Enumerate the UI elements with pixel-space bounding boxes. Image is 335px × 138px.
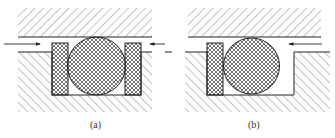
panel-a bbox=[4, 8, 165, 112]
seal-diagram bbox=[0, 0, 335, 138]
panel-b bbox=[165, 8, 330, 112]
housing-top-a bbox=[18, 8, 152, 37]
caption-b: (b) bbox=[248, 119, 260, 130]
backup-ring-left-a bbox=[52, 43, 68, 95]
housing-top-b bbox=[188, 8, 321, 37]
backup-ring-left-b bbox=[207, 43, 223, 95]
caption-a: (a) bbox=[90, 119, 101, 130]
backup-ring-right-a bbox=[125, 43, 141, 95]
o-ring-b bbox=[224, 38, 280, 94]
o-ring-a bbox=[68, 37, 126, 95]
